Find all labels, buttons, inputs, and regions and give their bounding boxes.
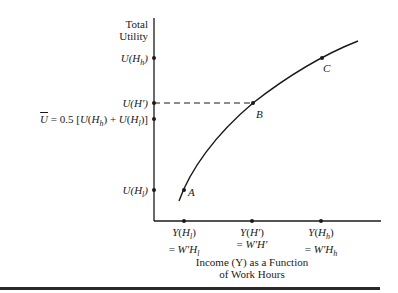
x-axis-title-line2: of Work Hours [172, 268, 332, 280]
y-tick-label-u-bar: U = 0.5 [U(Hh) + U(Hl)] [40, 113, 148, 130]
y-axis-title-line1: Total [126, 18, 148, 30]
y-tick-dot-u-hl [152, 188, 156, 192]
y-tick-label-u-hl: U(Hl) [123, 184, 148, 201]
bottom-rule [0, 287, 380, 290]
x-tick-dot-y-hh [319, 219, 323, 223]
y-tick-label-u-hprime: U(H′) [122, 97, 148, 109]
y-tick-label-u-hh: U(Hh) [121, 52, 148, 69]
x-tick-dot-y-hl [182, 219, 186, 223]
point-label-a: A [188, 186, 195, 198]
point-c [320, 56, 324, 60]
y-tick-dot-u-bar [152, 117, 156, 121]
y-tick-dot-u-hh [152, 56, 156, 60]
y-tick-dot-u-hprime [152, 101, 156, 105]
point-b [251, 101, 255, 105]
point-label-b: B [256, 108, 263, 120]
point-a [182, 188, 186, 192]
point-label-c: C [323, 62, 330, 74]
y-axis-title-line2: Utility [119, 30, 148, 42]
x-axis-title-line1: Income (Y) as a Function [172, 256, 332, 268]
x-tick-dot-y-hprime [250, 219, 254, 223]
utility-curve [179, 41, 358, 201]
x-tick-label-y-hprime: Y(H′)= W′H′ [222, 226, 282, 250]
